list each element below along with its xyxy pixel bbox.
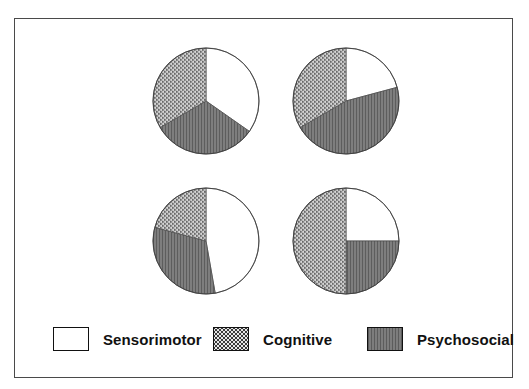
pie-slice-sensorimotor [206,188,259,293]
legend-swatch-icon [53,327,89,351]
legend-item-cognitive: Cognitive [213,323,332,355]
legend-swatch-icon [367,327,403,351]
chart-legend: Sensorimotor Cognitive Psychosocial [15,311,514,371]
pie-slice-psychosocial [346,241,399,294]
pie-slice-sensorimotor [346,188,399,241]
legend-swatch-icon [213,327,249,351]
pie-chart-panel [290,45,402,157]
pie-chart-pie-top-right [290,45,402,157]
legend-item-psychosocial: Psychosocial [367,323,514,355]
legend-item-label: Psychosocial [417,331,514,348]
legend-item-label: Sensorimotor [103,331,202,348]
pie-chart-panel [150,185,262,297]
pie-chart-panel [150,45,262,157]
pie-slice-cognitive [293,188,346,294]
legend-item-label: Cognitive [263,331,332,348]
pie-chart-pie-top-left [150,45,262,157]
figure-frame: Sensorimotor Cognitive Psychosocial [14,18,513,378]
figure-root: Sensorimotor Cognitive Psychosocial [0,0,529,389]
pie-chart-grid [15,19,514,309]
legend-item-sensorimotor: Sensorimotor [53,323,202,355]
pie-chart-pie-bottom-left [150,185,262,297]
pie-chart-pie-bottom-right [290,185,402,297]
pie-chart-panel [290,185,402,297]
